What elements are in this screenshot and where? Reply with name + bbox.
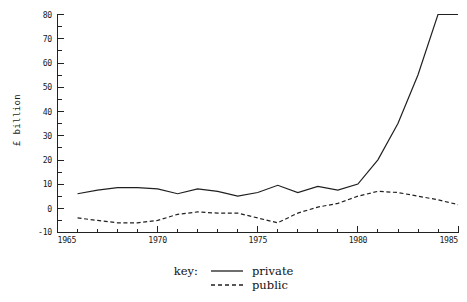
x-tick-label: 1980 (349, 235, 368, 245)
series-line-private (78, 15, 458, 197)
x-tick-label: 1965 (58, 235, 77, 245)
legend-title: key: (174, 264, 198, 278)
y-axis-title: £ billion (12, 94, 22, 146)
y-tick-label: 40 (43, 107, 53, 117)
y-tick-label: 0 (47, 204, 52, 214)
x-tick-label: 1975 (249, 235, 268, 245)
y-tick-labels: 80 70 60 50 40 30 20 10 0 -10 (38, 10, 52, 238)
y-minor-ticks (58, 27, 62, 221)
line-chart: 80 70 60 50 40 30 20 10 0 -10 1965 1970 … (0, 0, 467, 302)
legend-label-public: public (252, 278, 288, 292)
plot-area: 80 70 60 50 40 30 20 10 0 -10 1965 1970 … (0, 0, 467, 302)
y-tick-label: 10 (43, 179, 53, 189)
y-tick-label: -10 (38, 227, 52, 237)
chart-figure: 80 70 60 50 40 30 20 10 0 -10 1965 1970 … (0, 0, 467, 302)
y-tick-label: 50 (43, 82, 53, 92)
y-tick-label: 30 (43, 131, 53, 141)
y-tick-label: 70 (43, 34, 53, 44)
legend: key: private public (174, 264, 294, 292)
y-tick-label: 60 (43, 58, 53, 68)
x-tick-label: 1985 (439, 235, 458, 245)
x-tick-label: 1970 (148, 235, 167, 245)
y-tick-label: 20 (43, 155, 53, 165)
x-tick-labels: 1965 1970 1975 1980 1985 (58, 235, 459, 245)
series-line-public (78, 191, 458, 222)
legend-label-private: private (252, 264, 294, 278)
y-tick-label: 80 (43, 10, 53, 20)
